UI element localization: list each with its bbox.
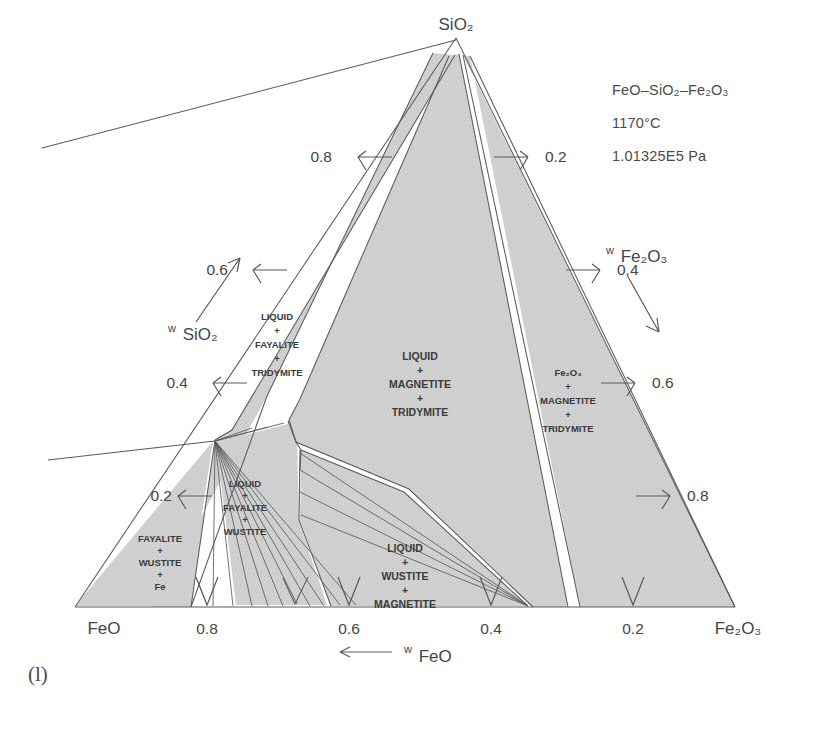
tick-label-bottom-0.2: 0.2 (622, 620, 644, 637)
region-fwf-line-3: + (157, 569, 163, 580)
region-lfw-line-2: FAYALITE (223, 502, 267, 513)
tick-label-left-0.4: 0.4 (166, 374, 188, 391)
axis-label-bottom-base: FeO (419, 647, 452, 666)
header-pressure-label: 1.01325E5 Pa (612, 148, 729, 164)
region-lwm-line-4: MAGNETITE (374, 598, 436, 610)
region-lft-line-4: TRIDYMITE (251, 367, 302, 378)
figure-caption: (l) (28, 662, 48, 687)
region-lmt-line-4: TRIDYMITE (392, 406, 449, 418)
bottom-axis-arrow (340, 647, 392, 657)
corner-label-fe2o3: Fe₂O₃ (715, 619, 762, 638)
region-lft-line-1: + (274, 325, 280, 336)
region-label-liquid-fayalite-tridymite: LIQUID + FAYALITE + TRIDYMITE (251, 311, 302, 378)
region-lft-line-3: + (274, 353, 280, 364)
region-hmt-line-2: MAGNETITE (540, 395, 596, 406)
tick-label-left-0.8: 0.8 (310, 148, 332, 165)
ternary-phase-diagram-figure: 0.8 0.6 0.4 0.2 0.2 0.4 0.6 0.8 0.8 0.6 … (0, 0, 827, 729)
external-tieline-lower (48, 441, 215, 460)
region-label-liquid-fayalite-wustite: LIQUID + FAYALITE + WUSTITE (223, 478, 267, 537)
region-fwf-line-4: Fe (154, 581, 165, 592)
right-axis-arrow (627, 275, 659, 332)
region-lfw-line-0: LIQUID (229, 478, 261, 489)
region-lwm-line-0: LIQUID (387, 542, 423, 554)
tick-label-right-0.8: 0.8 (687, 487, 709, 504)
region-lwm-line-1: + (402, 556, 408, 568)
external-tieline-upper (42, 40, 456, 148)
axis-label-left-base: SiO₂ (183, 325, 218, 344)
axis-label-bottom: w FeO (403, 638, 452, 666)
diagram-header-block: FeO–SiO₂–Fe₂O₃ 1170°C 1.01325E5 Pa (612, 82, 729, 181)
tick-label-left-0.6: 0.6 (206, 261, 228, 278)
region-lfw-line-3: + (242, 514, 248, 525)
tick-label-bottom-0.6: 0.6 (338, 620, 360, 637)
region-hmt-line-0: Fe₂O₃ (554, 367, 581, 378)
region-fwf-line-2: WUSTITE (139, 557, 182, 568)
region-lmt-line-0: LIQUID (402, 350, 438, 362)
tick-label-right-0.6: 0.6 (652, 374, 674, 391)
tick-bottom-0.8 (196, 577, 218, 605)
apex-label-sio2: SiO₂ (439, 15, 474, 34)
axis-label-bottom-prefix: w (403, 643, 412, 655)
region-lft-line-2: FAYALITE (255, 339, 299, 350)
region-lwm-line-3: + (402, 584, 408, 596)
tick-label-left-0.2: 0.2 (150, 487, 172, 504)
region-lwm-line-2: WUSTITE (381, 570, 428, 582)
axis-label-right-prefix: w (605, 244, 614, 256)
corner-label-feo: FeO (87, 619, 120, 638)
region-hmt-line-1: + (565, 381, 571, 392)
corner-label-feo-text: FeO (87, 619, 120, 638)
axis-label-left-prefix: w (167, 322, 176, 334)
region-fwf-line-0: FAYALITE (138, 533, 182, 544)
region-hmt-line-4: TRIDYMITE (542, 423, 593, 434)
axis-label-left: w SiO₂ (167, 317, 218, 344)
axis-label-right: w Fe₂O₃ (605, 239, 667, 266)
region-lfw-line-1: + (242, 490, 248, 501)
region-lmt-line-2: MAGNETITE (389, 378, 451, 390)
region-fwf-line-1: + (157, 545, 163, 556)
region-lmt-line-1: + (417, 364, 423, 376)
tick-left-0.6 (253, 264, 287, 283)
header-system-label: FeO–SiO₂–Fe₂O₃ (612, 82, 729, 98)
region-lmt-line-3: + (417, 392, 423, 404)
region-lfw-line-4: WUSTITE (224, 526, 267, 537)
apex-label-text: SiO₂ (439, 15, 474, 34)
axis-label-right-base: Fe₂O₃ (621, 247, 668, 266)
header-temperature-label: 1170°C (612, 115, 729, 131)
tick-label-right-0.2: 0.2 (545, 148, 567, 165)
tick-label-bottom-0.4: 0.4 (480, 620, 502, 637)
tick-label-bottom-0.8: 0.8 (196, 620, 218, 637)
region-hmt-line-3: + (565, 409, 571, 420)
region-lft-line-0: LIQUID (261, 311, 293, 322)
corner-label-fe2o3-text: Fe₂O₃ (715, 619, 762, 638)
